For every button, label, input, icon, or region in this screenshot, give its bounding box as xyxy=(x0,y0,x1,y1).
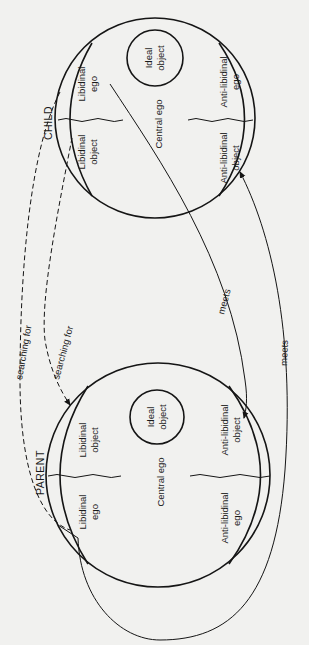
parent-libidinal-divider xyxy=(48,475,121,478)
parent-anti-libidinal-ego-label-1: Anti-libidinal xyxy=(219,492,230,543)
parent-title: PARENT xyxy=(34,450,46,495)
child-anti-libidinal-object-label-1: Anti-libidinal xyxy=(218,132,229,183)
parent-libidinal-ego-label-1: Libidinal xyxy=(77,495,88,530)
child-anti-libidinal-divider xyxy=(188,119,253,122)
child-anti-libidinal-ego-label-2: ego xyxy=(230,74,241,90)
child-central-ego-label: Central ego xyxy=(153,99,164,148)
label-meets-2: meets xyxy=(278,340,290,366)
label-searching-for-2: searching for xyxy=(50,325,75,381)
label-searching-for-1: searching for xyxy=(13,324,33,380)
parent-libidinal-object-label-1: Libidinal xyxy=(77,423,88,458)
child-libidinal-divider xyxy=(58,119,123,122)
child-ideal-object-label-2: object xyxy=(155,45,166,71)
child-psyche: CHILD Libidinal ego Libidinal object Cen… xyxy=(42,18,255,218)
child-ideal-object-label-1: Ideal xyxy=(143,48,154,69)
child-libidinal-ego-label-1: Libidinal xyxy=(76,67,87,102)
parent-ideal-object-label-1: Ideal xyxy=(145,407,156,428)
fairbairn-diagram: CHILD Libidinal ego Libidinal object Cen… xyxy=(0,0,309,645)
parent-anti-libidinal-object-label-1: Anti-libidinal xyxy=(219,404,230,455)
child-libidinal-object-label-1: Libidinal xyxy=(76,135,87,170)
arrow-parent-meets xyxy=(58,172,287,640)
parent-libidinal-ego-label-2: ego xyxy=(89,504,100,520)
parent-anti-libidinal-ego-label-2: ego xyxy=(231,510,242,526)
parent-psyche: PARENT Libidinal object Libidinal ego Ce… xyxy=(34,363,270,587)
parent-anti-libidinal-object-label-2: object xyxy=(231,417,242,443)
child-libidinal-object-label-2: object xyxy=(88,139,99,165)
child-libidinal-ego-label-2: ego xyxy=(88,76,99,92)
parent-ideal-object-label-2: object xyxy=(157,404,168,430)
parent-libidinal-object-label-2: object xyxy=(89,427,100,453)
parent-anti-libidinal-divider xyxy=(190,475,270,478)
child-anti-libidinal-ego-label-1: Anti-libidinal xyxy=(218,56,229,107)
parent-central-ego-label: Central ego xyxy=(155,457,166,506)
child-anti-libidinal-object-label-2: object xyxy=(230,145,241,171)
